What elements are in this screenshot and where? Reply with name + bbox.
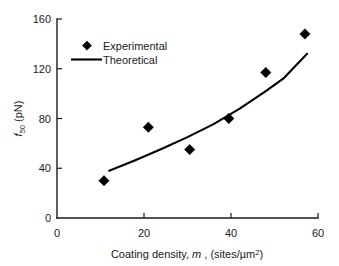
data-point-marker: [184, 144, 194, 154]
x-tick-label-0: 0: [54, 227, 60, 239]
chart-figure: 160 120 80 40 0 0 20 40 60 Experimental …: [0, 0, 339, 266]
y-axis-label-subscript: 50: [18, 125, 27, 133]
data-point-marker: [300, 29, 310, 39]
chart-legend: Experimental Theoretical: [71, 40, 167, 66]
x-axis-label: Coating density, m , (sites/µm2): [111, 248, 263, 261]
y-tick-label-0: 0: [45, 212, 51, 224]
data-point-marker: [224, 113, 234, 123]
x-axis-label-prefix: Coating density,: [111, 248, 192, 260]
svg-text:f50 (pN): f50 (pN): [12, 101, 27, 137]
y-axis-label: f50 (pN): [12, 101, 27, 137]
data-point-marker: [143, 122, 153, 132]
x-axis-label-suffix: ): [259, 248, 263, 260]
y-tick-label-160: 160: [33, 13, 51, 25]
legend-label-experimental: Experimental: [103, 40, 167, 52]
x-axis-ticks: [144, 213, 318, 218]
x-tick-label-40: 40: [225, 227, 237, 239]
data-point-marker: [261, 67, 271, 77]
legend-label-theoretical: Theoretical: [103, 54, 157, 66]
y-axis-tick-labels: 160 120 80 40 0: [33, 13, 51, 224]
y-tick-label-120: 120: [33, 63, 51, 75]
y-axis-ticks: [57, 19, 62, 168]
x-axis-label-middle: , (sites/µm: [201, 248, 255, 260]
data-point-marker: [99, 175, 109, 185]
y-axis-label-units: (pN): [12, 101, 24, 125]
theoretical-curve: [109, 54, 307, 171]
y-tick-label-40: 40: [39, 162, 51, 174]
x-tick-label-20: 20: [138, 227, 150, 239]
scatter-plot-svg: 160 120 80 40 0 0 20 40 60 Experimental …: [0, 0, 339, 266]
x-axis-label-variable: m: [192, 248, 201, 260]
x-tick-label-60: 60: [312, 227, 324, 239]
x-axis-tick-labels: 0 20 40 60: [54, 227, 324, 239]
legend-diamond-icon: [82, 41, 91, 50]
y-tick-label-80: 80: [39, 113, 51, 125]
